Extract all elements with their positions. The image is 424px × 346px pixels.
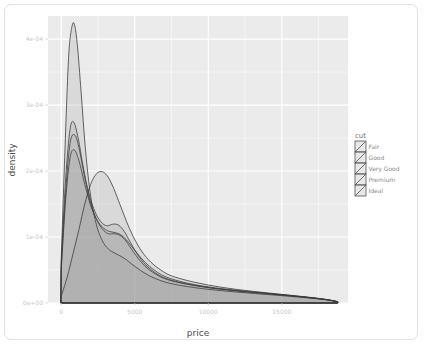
legend-item-very-good[interactable]: Very Good	[355, 163, 400, 174]
legend-title: cut	[355, 132, 366, 140]
x-axis-title: price	[187, 328, 210, 338]
legend-items: FairGoodVery GoodPremiumIdeal	[355, 141, 400, 196]
y-tick-label: 3e-04	[26, 101, 43, 108]
x-tick-label: 0	[59, 308, 63, 315]
x-axis-ticks: 050001000015000	[59, 303, 291, 315]
density-plot-figure: 050001000015000 0e+001e-042e-043e-044e-0…	[0, 0, 424, 346]
legend-item-label: Good	[369, 154, 385, 161]
legend-item-label: Premium	[369, 176, 396, 183]
legend-item-ideal[interactable]: Ideal	[355, 185, 383, 196]
y-axis-title: density	[7, 143, 17, 177]
legend-item-good[interactable]: Good	[355, 152, 384, 163]
legend-item-label: Very Good	[369, 165, 400, 173]
y-tick-label: 0e+00	[23, 299, 43, 306]
x-tick-label: 15000	[272, 308, 291, 315]
y-tick-label: 2e-04	[26, 167, 43, 174]
y-tick-label: 4e-04	[26, 35, 43, 42]
legend: cut FairGoodVery GoodPremiumIdeal	[355, 132, 400, 196]
legend-item-label: Fair	[369, 143, 380, 150]
legend-item-fair[interactable]: Fair	[355, 141, 380, 152]
y-tick-label: 1e-04	[26, 233, 43, 240]
x-tick-label: 5000	[127, 308, 142, 315]
x-tick-label: 10000	[199, 308, 218, 315]
y-axis-ticks: 0e+001e-042e-043e-044e-04	[23, 35, 48, 306]
plot-svg: 050001000015000 0e+001e-042e-043e-044e-0…	[0, 0, 424, 346]
legend-item-label: Ideal	[369, 187, 384, 194]
legend-item-premium[interactable]: Premium	[355, 174, 395, 185]
